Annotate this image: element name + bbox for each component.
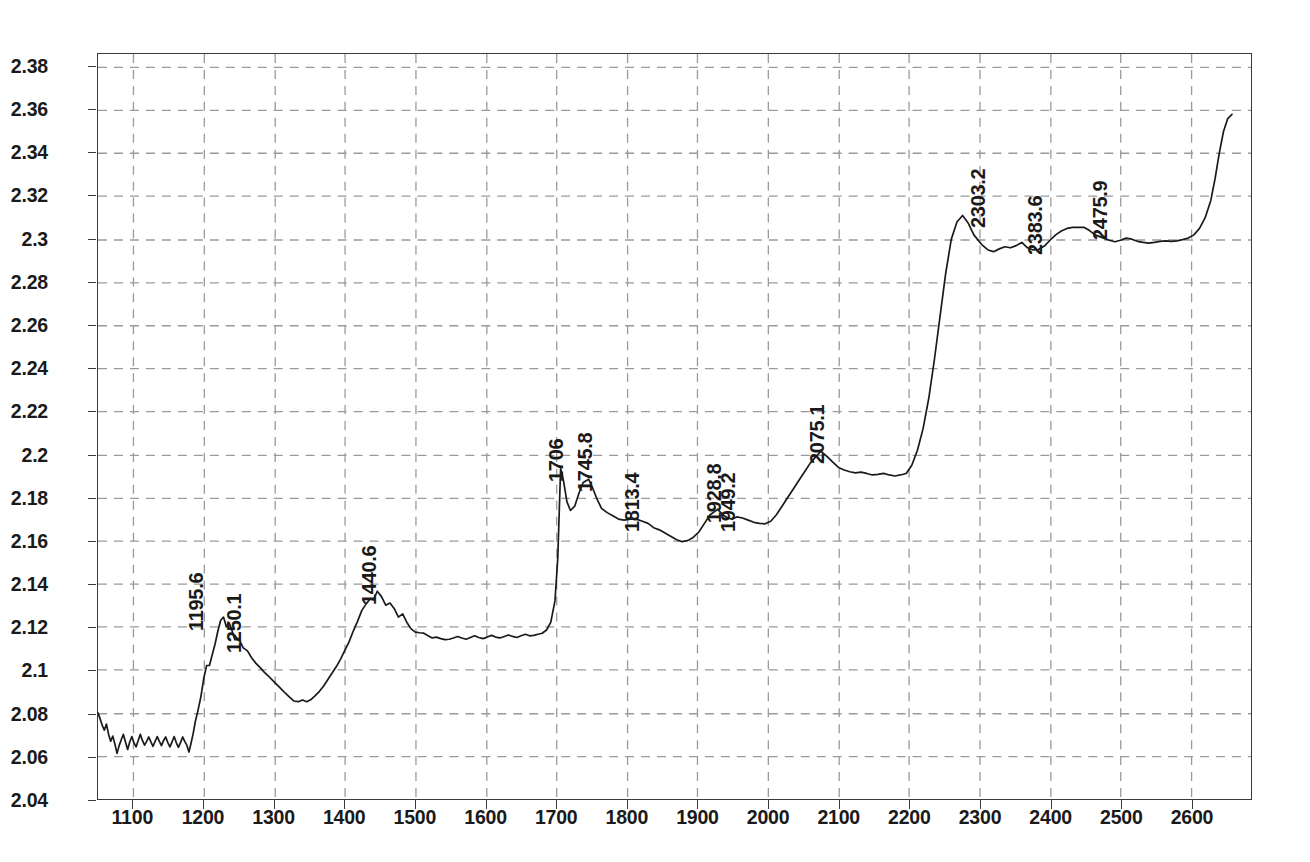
x-tick-label: 1900 [676,806,719,829]
y-tick-mark [88,584,96,585]
y-tick-label: 2.18 [11,486,48,509]
x-tick-label: 2300 [959,806,1002,829]
y-tick-label: 2.16 [11,529,48,552]
x-tick-mark [415,800,416,809]
y-tick-mark [88,627,96,628]
y-tick-mark [88,541,96,542]
series-spectrum [98,114,1232,753]
y-tick-mark [88,670,96,671]
x-tick-mark [1192,800,1193,809]
spectrum-trace [98,54,1251,799]
y-tick-label: 2.26 [11,314,48,337]
x-tick-label: 2100 [817,806,860,829]
x-tick-mark [697,800,698,809]
y-tick-label: 2.34 [11,141,48,164]
x-tick-mark [132,800,133,809]
y-tick-mark [88,152,96,153]
x-tick-mark [486,800,487,809]
y-tick-label: 2.1 [21,659,48,682]
peak-label: 1440.6 [358,545,381,604]
y-tick-mark [88,325,96,326]
peak-label: 1813.4 [621,473,644,532]
y-tick-mark [88,757,96,758]
x-tick-mark [980,800,981,809]
y-tick-label: 2.08 [11,702,48,725]
x-tick-mark [839,800,840,809]
peak-label: 2303.2 [967,169,990,228]
y-tick-label: 2.14 [11,573,48,596]
x-tick-mark [274,800,275,809]
y-tick-mark [88,455,96,456]
y-tick-mark [88,239,96,240]
chart-page: 2.042.062.082.12.122.142.162.182.22.222.… [0,0,1310,862]
x-tick-label: 2200 [888,806,931,829]
x-tick-label: 2000 [747,806,790,829]
x-tick-mark [203,800,204,809]
x-tick-label: 2500 [1100,806,1143,829]
peak-label: 2075.1 [806,405,829,464]
y-tick-label: 2.22 [11,400,48,423]
x-tick-mark [909,800,910,809]
x-tick-label: 1400 [323,806,366,829]
y-tick-label: 2.2 [21,443,48,466]
y-tick-mark [88,411,96,412]
y-tick-label: 2.36 [11,98,48,121]
x-tick-label: 2600 [1171,806,1214,829]
y-tick-mark [88,195,96,196]
y-tick-mark [88,282,96,283]
x-tick-label: 2400 [1029,806,1072,829]
peak-label: 1745.8 [574,433,597,492]
peak-label: 2383.6 [1024,196,1047,255]
y-tick-label: 2.04 [11,789,48,812]
x-tick-mark [768,800,769,809]
y-tick-label: 2.12 [11,616,48,639]
y-tick-mark [88,714,96,715]
x-tick-label: 1100 [112,806,154,829]
x-tick-mark [1121,800,1122,809]
y-tick-label: 2.06 [11,745,48,768]
x-tick-mark [556,800,557,809]
y-tick-label: 2.32 [11,184,48,207]
y-tick-mark [88,109,96,110]
x-tick-label: 1500 [394,806,437,829]
y-tick-mark [88,498,96,499]
x-tick-label: 1600 [464,806,507,829]
x-tick-mark [344,800,345,809]
x-tick-label: 1300 [252,806,295,829]
x-tick-mark [1051,800,1052,809]
y-tick-label: 2.24 [11,357,48,380]
y-tick-mark [88,368,96,369]
peak-label: 1706 [545,438,568,481]
y-tick-label: 2.28 [11,270,48,293]
x-tick-mark [627,800,628,809]
peak-label: 1250.1 [223,594,246,653]
plot-area [97,53,1252,800]
x-tick-label: 1800 [606,806,649,829]
y-tick-label: 2.3 [21,227,48,250]
peak-label: 1195.6 [185,572,208,630]
x-tick-label: 1200 [182,806,225,829]
y-tick-label: 2.38 [11,54,48,77]
y-tick-mark [88,66,96,67]
y-tick-mark [88,800,96,801]
peak-label: 1949.2 [717,473,740,532]
peak-label: 2475.9 [1089,180,1112,239]
x-tick-label: 1700 [535,806,578,829]
